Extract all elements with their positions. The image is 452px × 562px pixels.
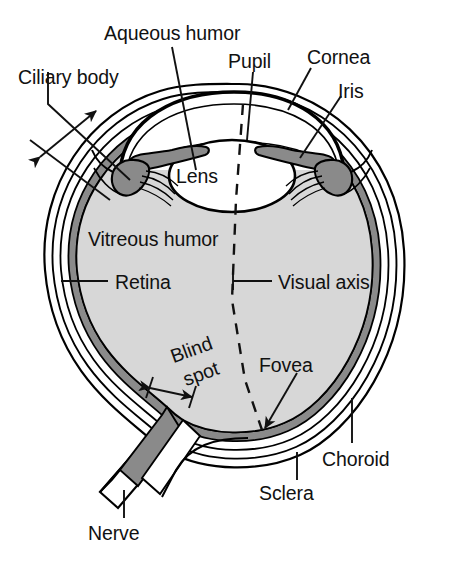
eye-diagram-figure: Aqueous humor Pupil Cornea Iris Ciliary … bbox=[0, 0, 452, 562]
ciliary-double-arrow bbox=[40, 111, 96, 157]
label-fovea: Fovea bbox=[259, 354, 313, 376]
label-aqueous-humor: Aqueous humor bbox=[104, 22, 241, 44]
label-ciliary-body: Ciliary body bbox=[18, 66, 119, 88]
label-lens: Lens bbox=[176, 165, 218, 187]
label-pupil: Pupil bbox=[228, 50, 271, 72]
label-vitreous-humor: Vitreous humor bbox=[88, 228, 219, 250]
eye-cross-section-svg: Aqueous humor Pupil Cornea Iris Ciliary … bbox=[0, 0, 452, 562]
label-choroid: Choroid bbox=[322, 448, 390, 470]
leader-cornea bbox=[288, 68, 311, 110]
label-retina: Retina bbox=[115, 271, 171, 293]
label-nerve: Nerve bbox=[88, 522, 140, 544]
label-iris: Iris bbox=[338, 80, 364, 102]
label-sclera: Sclera bbox=[259, 482, 314, 504]
label-cornea: Cornea bbox=[307, 46, 371, 68]
label-visual-axis: Visual axis bbox=[278, 271, 370, 293]
